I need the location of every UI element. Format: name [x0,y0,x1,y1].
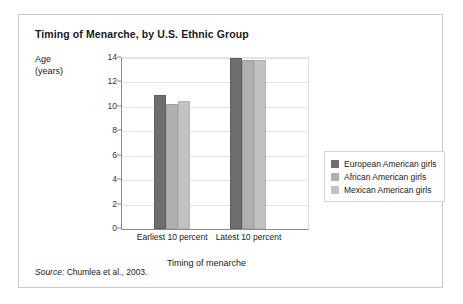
bar [178,101,190,229]
source-citation: Chumlea et al., 2003. [64,267,147,277]
legend-swatch-icon [331,160,339,168]
legend-item: African American girls [331,170,437,183]
figure-card: Timing of Menarche, by U.S. Ethnic Group… [18,14,443,288]
legend-swatch-icon [331,186,339,194]
gridline [122,107,308,108]
bar [154,95,166,229]
source-note: Source: Chumlea et al., 2003. [35,267,147,277]
legend-swatch-icon [331,173,339,181]
gridline [122,180,308,181]
legend-label: African American girls [344,172,426,182]
y-axis-tick-label: 10 [108,101,117,111]
gridline [122,205,308,206]
legend-item: Mexican American girls [331,183,437,196]
bar [254,60,266,229]
y-axis-tick-label: 14 [108,52,117,62]
bar [230,58,242,229]
legend-label: Mexican American girls [344,185,431,195]
gridline [122,82,308,83]
chart-legend: European American girlsAfrican American … [324,151,445,202]
bar-group [230,58,266,229]
legend-label: European American girls [344,159,437,169]
source-label: Source: [35,267,64,277]
plot-wrapper: 02468101214 Earliest 10 percentLatest 10… [99,57,309,257]
legend-item: European American girls [331,157,437,170]
x-axis-category-label: Earliest 10 percent [137,232,208,242]
gridline [122,156,308,157]
x-axis-category-label: Latest 10 percent [216,232,282,242]
bar-group [154,58,190,229]
y-axis-tick-labels: 02468101214 [99,57,121,228]
bar [166,104,178,229]
gridline [122,131,308,132]
bar [242,60,254,229]
figure-title: Timing of Menarche, by U.S. Ethnic Group [35,28,249,40]
y-axis-tick-label: 12 [108,76,117,86]
gridline [122,58,308,59]
y-axis-title-line1: Age [35,53,95,65]
y-axis-title-line2: (years) [35,65,95,77]
y-axis-title: Age (years) [35,53,95,77]
plot-area: Earliest 10 percentLatest 10 percent [121,57,309,230]
